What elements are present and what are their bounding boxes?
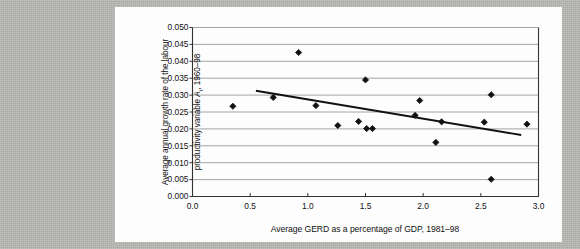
x-tick-label: 0.5 xyxy=(237,201,263,211)
y-axis-title-line2-pre: productivity variable xyxy=(193,97,202,171)
figure-root: Average annual growth rate of the labour… xyxy=(0,0,580,249)
y-axis-title-line2-post: , 1960–98 xyxy=(193,54,202,90)
data-point-marker xyxy=(417,97,423,103)
y-tick-label: 0.015 xyxy=(155,141,189,151)
data-point-marker xyxy=(335,122,341,128)
data-point-marker xyxy=(362,77,368,83)
data-point-marker xyxy=(488,92,494,98)
data-point-marker xyxy=(296,49,302,55)
data-point-marker xyxy=(355,118,361,124)
gridlines xyxy=(193,28,539,197)
y-tick-label: 0.005 xyxy=(155,174,189,184)
y-axis-variable-symbol: A xyxy=(193,91,202,96)
x-tick-label: 3.0 xyxy=(526,201,552,211)
data-point-marker xyxy=(439,119,445,125)
data-point-marker xyxy=(488,176,494,182)
data-point-marker xyxy=(481,119,487,125)
y-tick-label: 0.020 xyxy=(155,124,189,134)
y-tick-label: 0.050 xyxy=(155,22,189,32)
data-point-marker xyxy=(230,103,236,109)
y-tick-label: 0.010 xyxy=(155,158,189,168)
x-tick-label: 2.0 xyxy=(410,201,436,211)
x-tick-label: 2.5 xyxy=(468,201,494,211)
y-tick-label: 0.025 xyxy=(155,107,189,117)
trendline xyxy=(256,91,521,135)
x-tick-label: 1.5 xyxy=(353,201,379,211)
y-tick-label: 0.035 xyxy=(155,73,189,83)
data-point-marker xyxy=(313,102,319,108)
y-tick-label: 0.040 xyxy=(155,56,189,66)
x-tick-label: 0.0 xyxy=(180,201,206,211)
y-tick-label: 0.030 xyxy=(155,90,189,100)
data-point-marker xyxy=(433,139,439,145)
data-point-marker xyxy=(524,121,530,127)
y-axis-title-line2: productivity variable At, 1960–98 xyxy=(193,24,206,200)
scatter-chart xyxy=(0,0,580,249)
x-axis-title: Average GERD as a percentage of GDP, 198… xyxy=(192,224,538,235)
trendline-segment xyxy=(256,91,521,135)
x-tick-label: 1.0 xyxy=(295,201,321,211)
data-point-marker xyxy=(369,125,375,131)
y-tick-label: 0.045 xyxy=(155,39,189,49)
